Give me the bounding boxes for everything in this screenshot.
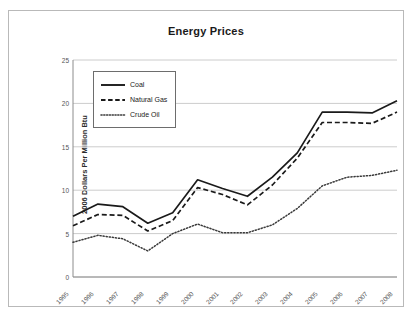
series-line-crude-oil: [73, 170, 397, 251]
legend-item-natural-gas: Natural Gas: [100, 92, 167, 107]
x-axis-tick-label: 2005: [304, 290, 319, 305]
y-axis-tick-label: 5: [65, 230, 69, 237]
legend-item-coal: Coal: [100, 77, 167, 92]
page-title: Energy Prices: [9, 25, 403, 37]
x-axis-tick-label: 1997: [104, 290, 119, 305]
x-axis-tick-label: 2001: [204, 290, 219, 305]
legend-item-crude-oil: Crude Oil: [100, 107, 167, 122]
x-axis-tick-label: 2000: [179, 290, 194, 305]
y-axis-tick-label: 0: [65, 274, 69, 281]
chart-legend: Coal Natural Gas Crude Oil: [93, 71, 176, 128]
series-line-natural-gas: [73, 112, 397, 231]
y-axis-tick-label: 15: [62, 143, 69, 150]
plot-area: 0510152025 19951996199719981999200020012…: [73, 60, 397, 277]
legend-label-natural-gas: Natural Gas: [130, 96, 167, 103]
y-axis-tick-label: 20: [62, 100, 69, 107]
legend-label-coal: Coal: [130, 81, 144, 88]
figure-canvas: Energy Prices 2006 Dollars Per Million B…: [0, 0, 416, 321]
x-axis-tick-label: 2007: [354, 290, 369, 305]
x-axis-tick-label: 2003: [254, 290, 269, 305]
x-axis-tick-label: 2006: [329, 290, 344, 305]
figure-frame: Energy Prices 2006 Dollars Per Million B…: [8, 10, 404, 307]
x-axis-tick-label: 1996: [80, 290, 95, 305]
x-axis-tick-label: 2002: [229, 290, 244, 305]
legend-swatch-solid-icon: [100, 80, 126, 90]
x-axis-tick-label: 2004: [279, 290, 294, 305]
legend-swatch-dashed-icon: [100, 95, 126, 105]
x-axis-tick-label: 1999: [154, 290, 169, 305]
plot-container: 2006 Dollars Per Million Btu 0510152025 …: [65, 50, 405, 278]
x-axis-tick-label: 1998: [129, 290, 144, 305]
x-axis-tick-label: 1995: [55, 290, 70, 305]
legend-swatch-dotted-icon: [100, 110, 126, 120]
x-axis-tick-label: 2008: [379, 290, 394, 305]
y-axis-tick-label: 10: [62, 187, 69, 194]
legend-label-crude-oil: Crude Oil: [130, 111, 160, 118]
y-axis-tick-label: 25: [62, 57, 69, 64]
